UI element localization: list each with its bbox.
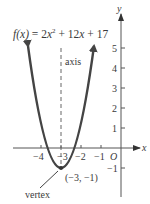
vertex-point bbox=[59, 166, 63, 170]
y-axis-label: y bbox=[116, 3, 122, 14]
x-tick-label: −4 bbox=[33, 151, 44, 162]
y-tick-label: −1 bbox=[107, 163, 118, 174]
y-tick-label: 2 bbox=[112, 103, 117, 114]
vertex-label: vertex bbox=[25, 189, 50, 200]
x-tick-label: −3 bbox=[57, 151, 68, 162]
parabola-graph: f(x) = 2x2 + 12x + 17 axis y x O −4 −3 −… bbox=[0, 0, 150, 204]
origin-label: O bbox=[110, 151, 117, 162]
y-tick-label: 3 bbox=[112, 83, 117, 94]
x-axis-label: x bbox=[141, 142, 147, 153]
vertex-coords-label: (−3, −1) bbox=[65, 172, 98, 184]
y-tick-label: 4 bbox=[112, 63, 117, 74]
y-ticks bbox=[121, 48, 125, 168]
x-tick-label: −1 bbox=[94, 151, 105, 162]
function-label: f(x) = 2x2 + 12x + 17 bbox=[13, 27, 108, 41]
vertex-pointer bbox=[40, 171, 58, 188]
x-tick-label: −2 bbox=[75, 151, 86, 162]
y-tick-label: 5 bbox=[112, 43, 117, 54]
y-tick-label: 1 bbox=[112, 123, 117, 134]
axis-label: axis bbox=[65, 56, 81, 67]
